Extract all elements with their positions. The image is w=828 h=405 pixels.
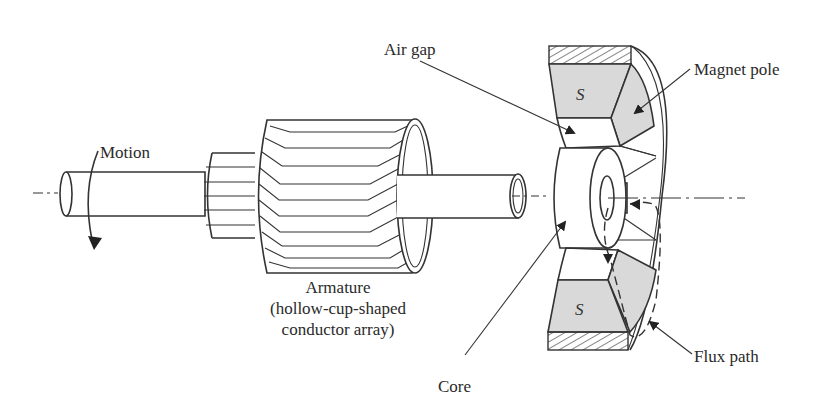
motor-diagram: S S Motion — [0, 0, 828, 405]
air-gap-label: Air gap — [384, 40, 435, 59]
magnet-pole-top: S — [549, 46, 654, 148]
magnet-pole-label: Magnet pole — [694, 60, 779, 79]
motion-label: Motion — [100, 143, 151, 162]
commutator — [204, 153, 255, 238]
shaft — [60, 172, 205, 216]
armature-label: Armature — [305, 278, 370, 297]
pole-bottom-label: S — [575, 300, 584, 319]
armature-sublabel-2: conductor array) — [282, 320, 395, 339]
flux-path-label: Flux path — [694, 347, 759, 366]
armature-sublabel-1: (hollow-cup-shaped — [270, 299, 406, 318]
hollow-shaft — [397, 174, 548, 218]
core-label: Core — [438, 377, 471, 396]
pole-top-label: S — [576, 85, 585, 104]
flux-path-leader — [650, 322, 692, 354]
